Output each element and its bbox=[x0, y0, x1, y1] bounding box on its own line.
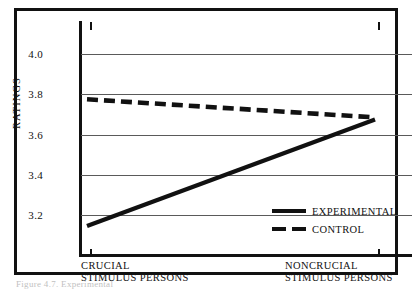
x-axis-line bbox=[79, 254, 412, 257]
legend-swatch-solid-line-icon bbox=[272, 204, 306, 218]
x-category-label-crucial-line1: CRUCIAL bbox=[81, 260, 189, 272]
gridline-3-8 bbox=[81, 94, 412, 95]
y-axis-title: RATINGS bbox=[11, 77, 22, 129]
legend-item-experimental: EXPERIMENTAL bbox=[272, 202, 407, 220]
legend-label-experimental: EXPERIMENTAL bbox=[312, 206, 396, 217]
gridline-4-0 bbox=[81, 54, 412, 55]
x-category-label-noncrucial-line2: STIMULUS PERSONS bbox=[285, 272, 393, 284]
figure-frame: RATINGS 4.0 3.8 3.6 3.4 3.2 CRUCIAL STIM… bbox=[14, 8, 398, 275]
tick-bottom-crucial bbox=[90, 249, 92, 257]
x-category-label-noncrucial: NONCRUCIAL STIMULUS PERSONS bbox=[285, 260, 393, 284]
y-tick-label-4-0: 4.0 bbox=[3, 49, 43, 60]
legend-swatch-dashed-line-icon bbox=[272, 222, 306, 236]
tick-bottom-noncrucial bbox=[378, 249, 380, 257]
figure-caption: Figure 4.7. Experimental bbox=[16, 279, 113, 289]
gridline-3-4 bbox=[81, 175, 412, 176]
x-category-label-noncrucial-line1: NONCRUCIAL bbox=[285, 260, 393, 272]
y-axis-line bbox=[79, 21, 82, 257]
legend-label-control: CONTROL bbox=[312, 224, 364, 235]
legend-item-control: CONTROL bbox=[272, 220, 407, 238]
y-tick-label-3-2: 3.2 bbox=[3, 210, 43, 221]
y-tick-label-3-6: 3.6 bbox=[3, 130, 43, 141]
y-tick-label-3-8: 3.8 bbox=[3, 89, 43, 100]
tick-top-noncrucial bbox=[378, 22, 380, 30]
gridline-3-6 bbox=[81, 135, 412, 136]
tick-top-crucial bbox=[90, 22, 92, 30]
y-tick-label-3-4: 3.4 bbox=[3, 170, 43, 181]
legend: EXPERIMENTAL CONTROL bbox=[272, 202, 407, 238]
